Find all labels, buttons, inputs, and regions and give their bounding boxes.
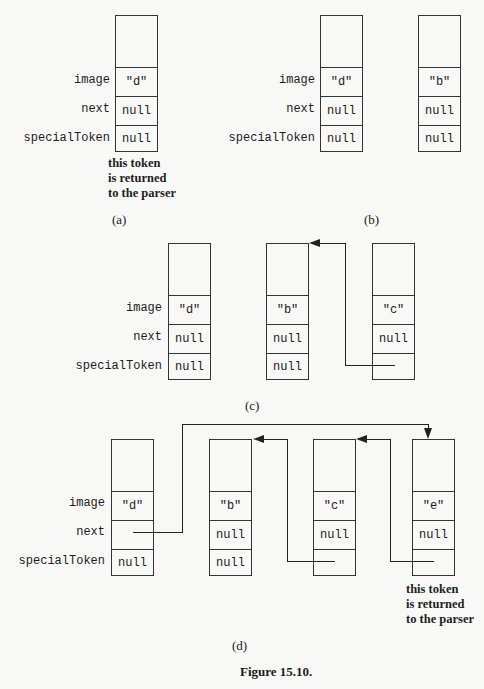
arrow-head-icon — [309, 239, 320, 247]
field-label-next: next — [52, 323, 162, 352]
image-cell: "d" — [116, 67, 157, 96]
field-label-special-token: specialToken — [0, 547, 105, 575]
image-cell: "b" — [419, 67, 460, 96]
next-cell: null — [210, 520, 251, 549]
image-cell: "b" — [267, 295, 308, 324]
pointer-line — [345, 365, 395, 366]
figure-caption: Figure 15.10. — [240, 664, 312, 680]
token-box-d: "d" null null — [168, 243, 211, 380]
pointer-line — [182, 424, 183, 533]
special-token-cell: null — [112, 549, 153, 576]
token-box-b: "b" null null — [418, 15, 461, 152]
returned-token-note: this token is returned to the parser — [108, 156, 176, 201]
special-token-cell: null — [267, 353, 308, 380]
token-box-b: "b" null null — [266, 243, 309, 380]
token-box-e: "e" null — [412, 439, 455, 576]
panel-label-d: (d) — [232, 638, 247, 654]
pointer-line — [133, 532, 183, 533]
image-cell: "d" — [112, 491, 153, 520]
pointer-line — [182, 424, 429, 425]
special-token-cell — [314, 549, 355, 576]
special-token-cell: null — [210, 549, 251, 576]
pointer-line — [345, 243, 346, 366]
pointer-line — [390, 439, 391, 562]
field-label-special-token: specialToken — [205, 124, 315, 152]
special-token-cell: null — [321, 125, 362, 152]
next-cell: null — [321, 96, 362, 125]
special-token-cell — [373, 353, 414, 380]
image-cell: "d" — [321, 67, 362, 96]
next-cell: null — [373, 324, 414, 353]
next-cell: null — [116, 96, 157, 125]
token-box-c: "c" null — [313, 439, 356, 576]
field-label-image: image — [52, 294, 162, 323]
token-box-c: "c" null — [372, 243, 415, 380]
special-token-cell — [413, 549, 454, 576]
image-cell: "c" — [373, 295, 414, 324]
image-cell: "d" — [169, 295, 210, 324]
pointer-line — [287, 439, 288, 562]
image-cell: "c" — [314, 491, 355, 520]
field-label-image: image — [205, 66, 315, 95]
special-token-cell: null — [116, 125, 157, 152]
next-cell: null — [314, 520, 355, 549]
token-box-d: "d" null null — [320, 15, 363, 152]
next-cell: null — [169, 324, 210, 353]
special-token-cell: null — [419, 125, 460, 152]
next-cell: null — [267, 324, 308, 353]
panel-label-a: (a) — [112, 212, 126, 228]
token-box-b: "b" null null — [209, 439, 252, 576]
next-cell: null — [419, 96, 460, 125]
field-label-special-token: specialToken — [52, 352, 162, 380]
special-token-cell: null — [169, 353, 210, 380]
returned-token-note: this token is returned to the parser — [406, 582, 474, 627]
panel-label-b: (b) — [364, 212, 379, 228]
panel-label-c: (c) — [245, 398, 259, 414]
token-box-d: "d" null null — [115, 15, 158, 152]
token-box-d: "d" null — [111, 439, 154, 576]
field-label-next: next — [0, 518, 105, 547]
field-label-special-token: specialToken — [0, 124, 110, 152]
pointer-line — [287, 561, 335, 562]
pointer-line — [390, 561, 434, 562]
image-cell: "b" — [210, 491, 251, 520]
field-label-next: next — [0, 95, 110, 124]
next-cell: null — [413, 520, 454, 549]
field-label-image: image — [0, 489, 105, 518]
field-label-next: next — [205, 95, 315, 124]
field-label-image: image — [0, 66, 110, 95]
image-cell: "e" — [413, 491, 454, 520]
arrow-head-icon — [356, 435, 367, 443]
next-cell — [112, 520, 153, 549]
arrow-head-icon — [424, 428, 432, 439]
arrow-head-icon — [253, 435, 264, 443]
